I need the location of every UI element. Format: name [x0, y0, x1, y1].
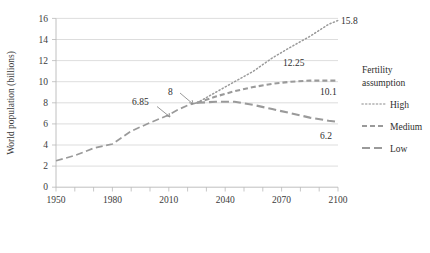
y-axis-ticks — [52, 18, 56, 187]
legend-title-line1: Fertility — [362, 65, 393, 75]
annotation-label-12-25: 12.25 — [283, 58, 305, 68]
x-tick-label: 1980 — [103, 195, 122, 205]
x-tick-label: 2010 — [159, 195, 178, 205]
legend-label-low: Low — [390, 144, 408, 154]
series-low — [197, 102, 338, 122]
y-tick-label: 2 — [43, 161, 48, 171]
x-tick-label: 2100 — [329, 195, 348, 205]
annotation-label-10-1: 10.1 — [320, 87, 337, 97]
x-tick-label: 2040 — [216, 195, 235, 205]
legend: Fertility assumption High Medium Low — [362, 65, 423, 154]
annotation-label-15-8: 15.8 — [341, 16, 358, 26]
y-tick-label: 14 — [39, 35, 49, 45]
annotation-label: 8 — [168, 87, 173, 97]
annotation-8: 8 — [168, 87, 193, 104]
y-axis-tick-labels: 16 14 12 10 8 6 4 2 0 — [39, 14, 49, 193]
y-tick-label: 0 — [43, 182, 48, 192]
series-historical — [56, 103, 197, 161]
x-tick-label: 2070 — [272, 195, 291, 205]
x-axis-tick-labels: 1950 1980 2010 2040 2070 2100 — [47, 195, 348, 205]
y-tick-label: 8 — [43, 98, 48, 108]
x-axis-minor-ticks — [56, 187, 338, 191]
x-tick-label: 1950 — [47, 195, 66, 205]
annotation-label-6-2: 6.2 — [320, 131, 332, 141]
y-tick-label: 16 — [39, 14, 49, 24]
y-tick-label: 12 — [39, 56, 49, 66]
legend-label-medium: Medium — [390, 122, 423, 132]
population-projection-chart: 16 14 12 10 8 6 4 2 0 — [0, 0, 430, 253]
y-tick-label: 10 — [39, 77, 49, 87]
legend-title-line2: assumption — [362, 78, 406, 88]
annotation-6-85: 6.85 — [132, 97, 170, 117]
legend-item-high[interactable]: High — [362, 100, 409, 110]
y-tick-label: 4 — [43, 140, 48, 150]
legend-item-medium[interactable]: Medium — [362, 122, 423, 132]
annotation-label: 6.85 — [132, 97, 149, 107]
series-high — [197, 21, 338, 103]
gridlines — [56, 18, 338, 166]
y-tick-label: 6 — [43, 119, 48, 129]
chart-figure: 16 14 12 10 8 6 4 2 0 — [0, 0, 430, 253]
y-axis-title: World population (billions) — [6, 51, 17, 155]
legend-item-low[interactable]: Low — [362, 144, 408, 154]
legend-label-high: High — [390, 100, 409, 110]
series-medium — [197, 81, 338, 103]
